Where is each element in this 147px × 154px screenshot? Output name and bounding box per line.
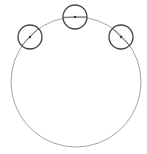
center-dot xyxy=(29,36,31,38)
marker-top xyxy=(63,5,87,29)
ring-diagram xyxy=(0,0,147,154)
center-dot xyxy=(74,16,76,18)
marker-group xyxy=(18,5,133,49)
marker-right xyxy=(109,25,133,49)
center-dot xyxy=(120,36,122,38)
marker-left xyxy=(18,25,42,49)
